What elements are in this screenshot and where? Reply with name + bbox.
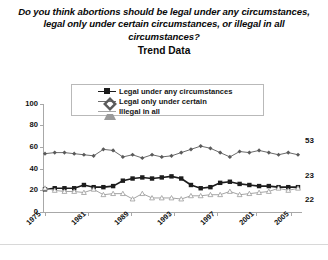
end-label-legal-certain: 53 bbox=[305, 136, 314, 145]
legend-item-legal-any[interactable]: Legal under any circumstances bbox=[98, 87, 263, 97]
x-tick-mark bbox=[291, 213, 292, 216]
trend-chart: Do you think abortions should be legal u… bbox=[0, 0, 328, 260]
y-tick-mark bbox=[40, 169, 43, 170]
y-tick-mark bbox=[40, 190, 43, 191]
legend-label: Legal only under certain bbox=[119, 97, 207, 106]
legend-swatch-diamond-icon bbox=[98, 97, 116, 106]
x-tick-mark bbox=[217, 213, 218, 216]
legend-item-legal-certain[interactable]: Legal only under certain bbox=[98, 97, 263, 107]
x-tick-mark bbox=[256, 213, 257, 216]
y-tick-label-80: 80 bbox=[12, 121, 38, 129]
legend-label: Illegal in all bbox=[119, 107, 160, 116]
y-tick-label-20: 20 bbox=[12, 186, 38, 194]
y-tick-mark bbox=[40, 104, 43, 105]
end-label-legal-any: 23 bbox=[305, 171, 314, 180]
x-tick-mark bbox=[131, 213, 132, 216]
y-tick-label-100: 100 bbox=[12, 100, 38, 108]
page-title: Do you think abortions should be legal u… bbox=[16, 6, 312, 43]
y-tick-mark bbox=[40, 125, 43, 126]
legend-label: Legal under any circumstances bbox=[119, 87, 233, 96]
legend-swatch-square-icon bbox=[98, 87, 116, 96]
y-tick-label-40: 40 bbox=[12, 165, 38, 173]
chart-legend: Legal under any circumstances Legal only… bbox=[71, 84, 264, 116]
chart-subtitle: Trend Data bbox=[16, 44, 312, 57]
y-axis-line bbox=[43, 104, 44, 213]
legend-swatch-triangle-icon bbox=[98, 107, 116, 116]
end-label-illegal-all: 22 bbox=[305, 195, 314, 204]
x-tick-mark bbox=[45, 213, 46, 216]
y-tick-label-60: 60 bbox=[12, 143, 38, 151]
y-tick-mark bbox=[40, 147, 43, 148]
legend-item-illegal-all[interactable]: Illegal in all bbox=[98, 107, 263, 117]
x-tick-mark bbox=[88, 213, 89, 216]
bottom-divider bbox=[0, 244, 328, 245]
x-tick-mark bbox=[174, 213, 175, 216]
title-block: Do you think abortions should be legal u… bbox=[16, 6, 312, 57]
